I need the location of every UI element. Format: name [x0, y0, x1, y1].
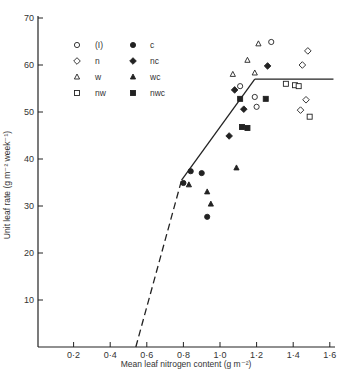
filled-triangle-marker — [205, 189, 210, 194]
filled-square-marker — [245, 125, 250, 130]
y-tick-label: 70 — [24, 13, 34, 23]
filled-square-marker — [239, 125, 244, 130]
y-tick-label: 20 — [24, 248, 34, 258]
legend-label: wc — [149, 72, 161, 82]
filled-circle-marker — [205, 214, 210, 219]
open-square-marker — [307, 114, 312, 119]
open-triangle-marker — [256, 41, 261, 46]
filled-diamond-marker — [240, 106, 247, 113]
y-tick-label: 50 — [24, 107, 34, 117]
filled-triangle-marker — [234, 165, 239, 170]
open-square-marker — [283, 81, 288, 86]
open-circle-marker — [254, 104, 259, 109]
legend: (I)nwnwcncwcnwc — [74, 40, 166, 98]
data-points — [181, 39, 312, 219]
x-axis-label: Mean leaf nitrogen content (g m⁻²) — [121, 359, 252, 369]
x-tick-label: 1·6 — [323, 350, 336, 360]
y-tick-label: 40 — [24, 154, 34, 164]
scatter-chart: 0·20·40·60·81·01·21·41·6 10203040506070 … — [0, 0, 349, 382]
x-ticks: 0·20·40·60·81·01·21·41·6 — [67, 342, 336, 360]
legend-open-triangle-icon — [74, 74, 79, 79]
legend-label: nc — [150, 56, 160, 66]
legend-filled-circle-icon — [130, 42, 135, 47]
filled-square-marker — [263, 96, 268, 101]
open-diamond-marker — [297, 107, 304, 114]
legend-open-diamond-icon — [74, 58, 81, 65]
legend-filled-triangle-icon — [130, 74, 135, 79]
legend-filled-diamond-icon — [130, 58, 137, 65]
legend-label: nw — [95, 88, 107, 98]
x-tick-label: 1·2 — [250, 350, 263, 360]
open-circle-marker — [252, 94, 257, 99]
filled-diamond-marker — [226, 133, 233, 140]
legend-label: nwc — [150, 88, 166, 98]
y-ticks: 10203040506070 — [24, 13, 43, 305]
fit-lines — [136, 79, 334, 347]
filled-circle-marker — [181, 180, 186, 185]
open-square-marker — [296, 84, 301, 89]
x-tick-label: 0·4 — [104, 350, 117, 360]
open-diamond-marker — [303, 96, 310, 103]
y-tick-label: 60 — [24, 60, 34, 70]
legend-filled-square-icon — [131, 91, 136, 96]
open-diamond-marker — [305, 48, 312, 55]
filled-diamond-marker — [264, 63, 271, 70]
x-tick-label: 0·2 — [67, 350, 80, 360]
dashed-fit-line — [136, 180, 182, 347]
open-circle-marker — [238, 84, 243, 89]
filled-diamond-marker — [231, 87, 238, 94]
legend-open-square-icon — [75, 91, 80, 96]
y-tick-label: 10 — [24, 295, 34, 305]
open-diamond-marker — [299, 62, 306, 69]
y-axis-label: Unit leaf rate (g m⁻² week⁻¹) — [2, 131, 12, 239]
filled-triangle-marker — [186, 182, 191, 187]
legend-label: n — [95, 56, 100, 66]
open-triangle-marker — [252, 70, 257, 75]
filled-triangle-marker — [208, 201, 213, 206]
x-tick-label: 1·4 — [287, 350, 300, 360]
filled-square-marker — [238, 96, 243, 101]
y-tick-label: 30 — [24, 201, 34, 211]
filled-circle-marker — [199, 171, 204, 176]
axes — [38, 16, 335, 347]
filled-circle-marker — [188, 169, 193, 174]
open-triangle-marker — [230, 71, 235, 76]
open-circle-marker — [269, 39, 274, 44]
legend-label: w — [94, 72, 102, 82]
open-triangle-marker — [245, 57, 250, 62]
legend-label: (I) — [95, 40, 103, 50]
legend-open-circle-icon — [74, 42, 79, 47]
legend-label: c — [150, 40, 155, 50]
